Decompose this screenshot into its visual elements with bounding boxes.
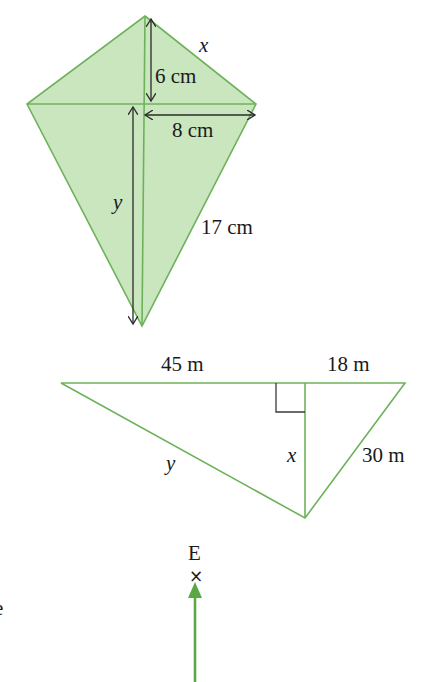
kite-label-8cm: 8 cm: [172, 120, 213, 141]
triangle-label-y: y: [166, 453, 175, 474]
kite-figure: [27, 16, 256, 326]
kite-shape: [27, 16, 256, 326]
right-angle-marker: [276, 383, 305, 412]
kite-label-6cm: 6 cm: [155, 66, 196, 87]
point-e-figure: [188, 582, 202, 682]
point-marker-cross: ×: [189, 568, 203, 585]
kite-label-y: y: [113, 192, 122, 213]
triangle-label-30m: 30 m: [362, 445, 405, 466]
triangle-figure: [61, 383, 405, 518]
cropped-text-fragment: e: [0, 598, 3, 619]
triangle-label-x: x: [287, 445, 296, 466]
triangle-outline: [61, 383, 405, 518]
kite-label-17cm: 17 cm: [201, 217, 253, 238]
kite-label-x: x: [199, 35, 208, 56]
diagram-canvas: [0, 0, 422, 682]
triangle-label-45m: 45 m: [161, 354, 204, 375]
triangle-label-18m: 18 m: [327, 354, 370, 375]
point-label-e: E: [188, 543, 201, 564]
